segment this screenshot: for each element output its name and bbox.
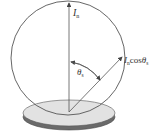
- angle-arc-start-arrow: [71, 62, 100, 80]
- label-oblique-intensity: Incosθs: [123, 55, 148, 66]
- angle-arc: [71, 62, 100, 80]
- diagram-canvas: In Incosθs θs: [0, 0, 160, 139]
- intensity-sphere: [11, 1, 125, 115]
- label-normal-intensity: In: [72, 7, 79, 19]
- label-angle-theta: θs: [77, 67, 84, 78]
